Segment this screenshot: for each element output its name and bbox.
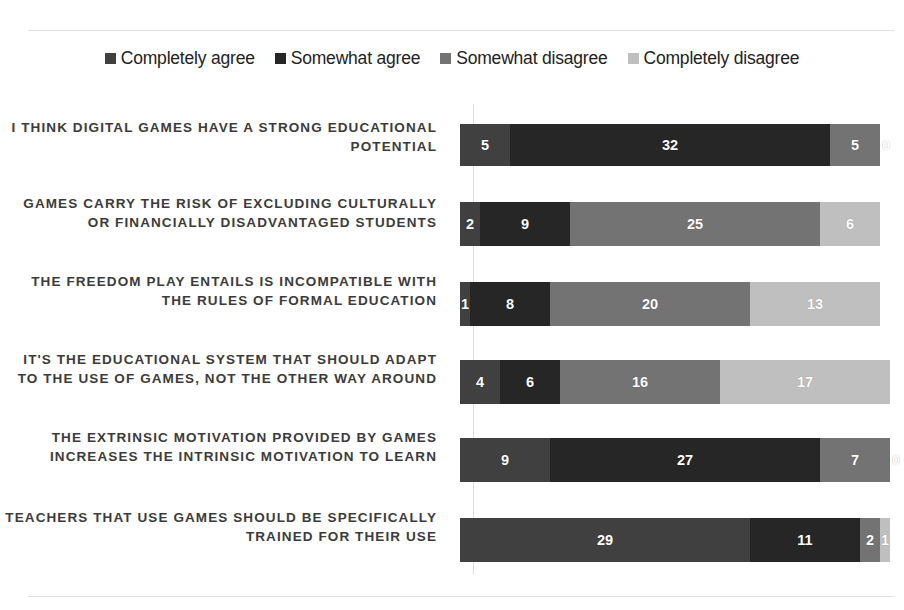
- bar-segment[interactable]: 1: [880, 518, 890, 562]
- stacked-bar[interactable]: 182013: [460, 282, 880, 326]
- bar-segment[interactable]: 7: [820, 438, 890, 482]
- chart-row: THE FREEDOM PLAY ENTAILS IS INCOMPATIBLE…: [0, 260, 904, 322]
- chart-plot-area: I THINK DIGITAL GAMES HAVE A STRONG EDUC…: [0, 104, 904, 574]
- bar-segment[interactable]: 2: [460, 202, 480, 246]
- bar-segment-value: 9: [501, 452, 509, 468]
- bar-segment[interactable]: 27: [550, 438, 820, 482]
- bar-segment-value: 6: [526, 374, 534, 390]
- bar-segment-value: 8: [506, 296, 514, 312]
- bar-segment[interactable]: 25: [570, 202, 820, 246]
- bar-segment[interactable]: 6: [820, 202, 880, 246]
- bar-segment[interactable]: 29: [460, 518, 750, 562]
- bar-segment[interactable]: 6: [500, 360, 560, 404]
- bar-segment[interactable]: 4: [460, 360, 500, 404]
- bar-track: 29256: [455, 182, 904, 244]
- bar-segment[interactable]: 5: [460, 124, 510, 166]
- bar-segment[interactable]: 9: [480, 202, 570, 246]
- category-label: THE FREEDOM PLAY ENTAILS IS INCOMPATIBLE…: [0, 272, 455, 310]
- bar-segment[interactable]: 2: [860, 518, 880, 562]
- legend-item[interactable]: Somewhat disagree: [440, 48, 607, 69]
- bar-segment-value: 27: [677, 452, 693, 468]
- legend-swatch-icon: [275, 53, 286, 64]
- legend-label: Completely disagree: [644, 48, 800, 69]
- bar-segment[interactable]: 20: [550, 282, 750, 326]
- bar-segment-value: 0: [882, 137, 890, 153]
- stacked-bar[interactable]: 461617: [460, 360, 890, 404]
- bar-segment[interactable]: 17: [720, 360, 890, 404]
- bar-segment-value: 17: [797, 374, 813, 390]
- bar-segment[interactable]: 5: [830, 124, 880, 166]
- legend-label: Somewhat agree: [291, 48, 421, 69]
- legend-label: Completely agree: [121, 48, 255, 69]
- category-label: IT'S THE EDUCATIONAL SYSTEM THAT SHOULD …: [0, 350, 455, 388]
- bar-segment-value: 5: [851, 137, 859, 153]
- bar-segment[interactable]: 16: [560, 360, 720, 404]
- stacked-bar[interactable]: 29256: [460, 202, 880, 246]
- bar-segment[interactable]: 8: [470, 282, 550, 326]
- category-label: GAMES CARRY THE RISK OF EXCLUDING CULTUR…: [0, 194, 455, 232]
- category-label: TEACHERS THAT USE GAMES SHOULD BE SPECIF…: [0, 508, 455, 546]
- bar-track: 461617: [455, 338, 904, 400]
- bar-segment-value: 29: [597, 532, 613, 548]
- bar-segment-value: 16: [632, 374, 648, 390]
- bar-track: 92770: [455, 416, 904, 478]
- bar-segment-value: 25: [687, 216, 703, 232]
- bar-segment[interactable]: 11: [750, 518, 860, 562]
- legend-label: Somewhat disagree: [456, 48, 607, 69]
- chart-row: THE EXTRINSIC MOTIVATION PROVIDED BY GAM…: [0, 416, 904, 478]
- category-label: I THINK DIGITAL GAMES HAVE A STRONG EDUC…: [0, 118, 455, 156]
- bar-segment[interactable]: 9: [460, 438, 550, 482]
- bar-segment-value: 4: [476, 374, 484, 390]
- legend-swatch-icon: [628, 53, 639, 64]
- bar-segment-value: 13: [807, 296, 823, 312]
- bar-track: 182013: [455, 260, 904, 322]
- bar-segment-value: 20: [642, 296, 658, 312]
- bar-segment-value: 6: [846, 216, 854, 232]
- bar-segment-value: 0: [892, 452, 900, 468]
- stacked-bar-chart: Completely agreeSomewhat agreeSomewhat d…: [0, 0, 904, 610]
- chart-row: I THINK DIGITAL GAMES HAVE A STRONG EDUC…: [0, 106, 904, 168]
- bar-segment-value: 7: [851, 452, 859, 468]
- stacked-bar[interactable]: 291121: [460, 518, 890, 562]
- category-label: THE EXTRINSIC MOTIVATION PROVIDED BY GAM…: [0, 428, 455, 466]
- bar-segment-value: 2: [866, 532, 874, 548]
- bar-segment-value: 9: [521, 216, 529, 232]
- bar-track: 291121: [455, 496, 904, 558]
- stacked-bar[interactable]: 53250: [460, 124, 880, 166]
- legend-swatch-icon: [440, 53, 451, 64]
- bar-segment[interactable]: 32: [510, 124, 830, 166]
- bar-segment[interactable]: 13: [750, 282, 880, 326]
- bar-track: 53250: [455, 106, 904, 168]
- legend-item[interactable]: Completely disagree: [628, 48, 800, 69]
- legend-item[interactable]: Completely agree: [105, 48, 255, 69]
- chart-row: TEACHERS THAT USE GAMES SHOULD BE SPECIF…: [0, 496, 904, 558]
- bar-segment[interactable]: 1: [460, 282, 470, 326]
- chart-row: GAMES CARRY THE RISK OF EXCLUDING CULTUR…: [0, 182, 904, 244]
- bar-segment-value: 1: [461, 296, 469, 312]
- legend-item[interactable]: Somewhat agree: [275, 48, 421, 69]
- stacked-bar[interactable]: 92770: [460, 438, 890, 482]
- legend-swatch-icon: [105, 53, 116, 64]
- bar-segment-value: 1: [881, 532, 889, 548]
- bar-segment-value: 5: [481, 137, 489, 153]
- chart-legend: Completely agreeSomewhat agreeSomewhat d…: [0, 48, 904, 69]
- bar-segment-value: 2: [466, 216, 474, 232]
- bar-segment-value: 32: [662, 137, 678, 153]
- bar-segment-value: 11: [797, 532, 812, 548]
- chart-row: IT'S THE EDUCATIONAL SYSTEM THAT SHOULD …: [0, 338, 904, 400]
